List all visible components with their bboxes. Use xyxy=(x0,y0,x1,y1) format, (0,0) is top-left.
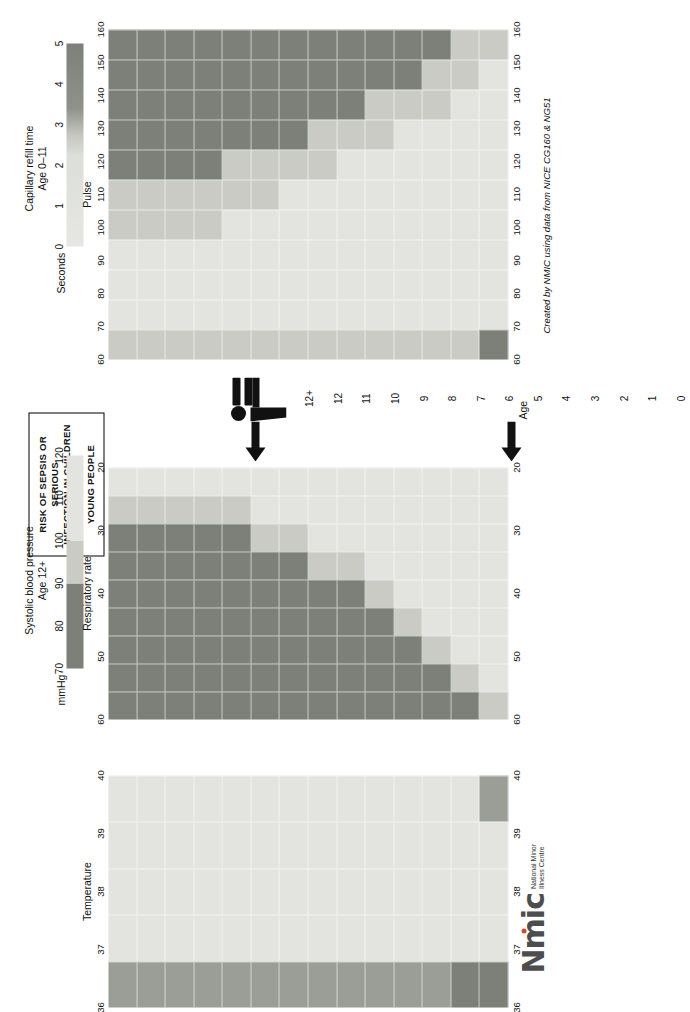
heatmap-cell xyxy=(165,607,194,635)
heatmap-cell xyxy=(165,209,194,239)
heatmap-cell xyxy=(279,329,308,359)
heatmap-cell xyxy=(422,209,451,239)
chart-resp-xticks-top: 6050403020 xyxy=(94,467,108,719)
heatmap-cell xyxy=(137,579,166,607)
age-tick-label: 1 xyxy=(646,381,657,415)
heatmap-cell xyxy=(308,89,337,119)
chart-pulse: Pulse 60708090100110120130140150160 6070… xyxy=(80,29,524,359)
heatmap-cell xyxy=(137,551,166,579)
chart-x-tick-label: 90 xyxy=(94,255,105,266)
chart-x-tick-label: 40 xyxy=(94,770,105,781)
heatmap-cell xyxy=(279,691,308,719)
legend-bp-ticks: 708090100110120 xyxy=(53,455,66,668)
heatmap-cell xyxy=(394,179,423,209)
age-tick-label: 10 xyxy=(389,381,400,415)
heatmap-cell xyxy=(279,149,308,179)
heatmap-cell xyxy=(365,329,394,359)
heatmap-cell xyxy=(108,691,137,719)
heatmap-cell xyxy=(308,523,337,551)
heatmap-cell xyxy=(479,635,508,663)
heatmap-cell xyxy=(451,523,480,551)
heatmap-cell xyxy=(194,495,223,523)
heatmap-cell xyxy=(108,663,137,691)
heatmap-cell xyxy=(337,329,366,359)
heatmap-cell xyxy=(137,663,166,691)
nmic-logo: Nmic National Minor Illness Centre xyxy=(515,120,550,973)
heatmap-cell xyxy=(479,467,508,495)
chart-x-tick-label: 60 xyxy=(94,714,105,725)
heatmap-cell xyxy=(194,29,223,59)
heatmap-cell xyxy=(137,59,166,89)
heatmap-cell xyxy=(251,209,280,239)
heatmap-cell xyxy=(479,149,508,179)
heatmap-cell xyxy=(451,179,480,209)
heatmap-cell xyxy=(394,579,423,607)
heatmap-cell xyxy=(251,821,280,867)
heatmap-cell xyxy=(479,269,508,299)
heatmap-cell xyxy=(394,119,423,149)
heatmap-cell xyxy=(194,914,223,960)
heatmap-cell xyxy=(479,209,508,239)
heatmap-cell xyxy=(279,914,308,960)
heatmap-cell xyxy=(365,467,394,495)
person-icon xyxy=(228,377,286,421)
heatmap-cell xyxy=(422,914,451,960)
heatmap-cell xyxy=(251,868,280,914)
heatmap-cell xyxy=(222,59,251,89)
heatmap-cell xyxy=(308,821,337,867)
heatmap-cell xyxy=(222,821,251,867)
legend-bp-tick: 80 xyxy=(53,620,64,631)
heatmap-cell xyxy=(222,691,251,719)
heatmap-cell xyxy=(165,29,194,59)
heatmap-cell xyxy=(165,495,194,523)
age-tick-label: 12+ xyxy=(303,381,314,415)
heatmap-cell xyxy=(308,269,337,299)
heatmap-cell xyxy=(394,821,423,867)
chart-x-tick-label: 140 xyxy=(94,87,105,103)
heatmap-cell xyxy=(222,663,251,691)
heatmap-cell xyxy=(394,495,423,523)
heatmap-cell xyxy=(251,495,280,523)
heatmap-cell xyxy=(422,29,451,59)
heatmap-cell xyxy=(337,269,366,299)
heatmap-cell xyxy=(394,149,423,179)
heatmap-cell xyxy=(279,821,308,867)
heatmap-cell xyxy=(222,179,251,209)
heatmap-cell xyxy=(365,914,394,960)
heatmap-cell xyxy=(337,523,366,551)
heatmap-cell xyxy=(194,119,223,149)
heatmap-cell xyxy=(365,551,394,579)
heatmap-cell xyxy=(137,119,166,149)
heatmap-cell xyxy=(365,239,394,269)
heatmap-cell xyxy=(422,961,451,1007)
heatmap-cell xyxy=(222,523,251,551)
heatmap-cell xyxy=(337,607,366,635)
heatmap-cell xyxy=(108,961,137,1007)
heatmap-cell xyxy=(337,467,366,495)
heatmap-cell xyxy=(451,775,480,821)
heatmap-cell xyxy=(394,329,423,359)
heatmap-cell xyxy=(251,961,280,1007)
heatmap-cell xyxy=(194,691,223,719)
chart-x-tick-label: 150 xyxy=(94,54,105,70)
heatmap-cell xyxy=(165,239,194,269)
heatmap-cell xyxy=(479,914,508,960)
heatmap-cell xyxy=(422,551,451,579)
heatmap-cell xyxy=(479,607,508,635)
heatmap-cell xyxy=(222,467,251,495)
heatmap-cell xyxy=(394,691,423,719)
chart-resp-grid xyxy=(108,467,508,719)
age-axis: 12+1211109876543210 xyxy=(296,381,690,415)
heatmap-cell xyxy=(422,59,451,89)
heatmap-cell xyxy=(137,821,166,867)
heatmap-cell xyxy=(479,89,508,119)
chart-x-tick-label: 150 xyxy=(510,54,521,70)
heatmap-cell xyxy=(479,775,508,821)
heatmap-cell xyxy=(251,59,280,89)
heatmap-cell xyxy=(251,775,280,821)
heatmap-cell xyxy=(365,209,394,239)
chart-x-tick-label: 100 xyxy=(94,219,105,235)
legend-capillary-title-line1: Capillary refill time xyxy=(22,43,35,293)
heatmap-cell xyxy=(308,961,337,1007)
legend-bp-tick: 70 xyxy=(53,663,64,674)
